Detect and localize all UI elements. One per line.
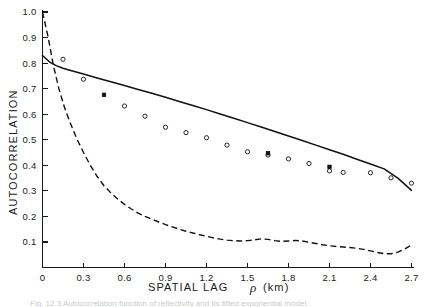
data-point-marker: [122, 104, 126, 108]
fitted-point-marker: [328, 165, 331, 168]
observed-data-points: [61, 57, 414, 185]
axes-group: [43, 10, 415, 268]
data-point-marker: [286, 157, 290, 161]
y-tick-label: 0.9: [22, 32, 36, 43]
x-axis-title-units: (km): [263, 281, 289, 293]
y-axis-title: AUTOCORRELATION: [7, 90, 19, 216]
x-tick-label: 2.7: [404, 272, 418, 283]
x-axis-tick-labels: 00.30.60.91.21.51.82.12.42.7: [40, 272, 419, 283]
empirical-autocorrelation-dashed-curve: [43, 12, 412, 254]
data-point-marker: [204, 136, 208, 140]
y-tick-label: 0.7: [22, 83, 36, 94]
fitted-model-solid-curve: [43, 55, 412, 190]
data-point-marker: [341, 170, 345, 174]
x-tick-label: 0.3: [76, 272, 90, 283]
x-axis-title-main: SPATIAL LAG: [148, 281, 228, 293]
y-axis-ticks: [43, 12, 48, 242]
figure-caption: Fig. 12.3 Autocorrelation function of re…: [30, 299, 426, 307]
data-point-marker: [143, 114, 147, 118]
y-tick-label: 0.2: [22, 211, 36, 222]
autocorrelation-chart: 0.10.20.30.40.50.60.70.80.91.0 00.30.60.…: [0, 0, 426, 307]
x-axis-ticks: [43, 263, 412, 268]
y-axis-tick-labels: 0.10.20.30.40.50.60.70.80.91.0: [22, 6, 36, 247]
y-tick-label: 0.1: [22, 236, 36, 247]
data-point-marker: [61, 57, 65, 61]
data-point-marker: [327, 169, 331, 173]
y-tick-label: 1.0: [22, 6, 36, 17]
data-point-marker: [81, 77, 85, 81]
y-tick-label: 0.4: [22, 160, 36, 171]
x-tick-label: 2.1: [322, 272, 336, 283]
fitted-point-marker: [266, 152, 269, 155]
data-point-marker: [307, 161, 311, 165]
data-point-marker: [184, 131, 188, 135]
data-point-marker: [163, 125, 167, 129]
y-tick-label: 0.6: [22, 109, 36, 120]
data-point-marker: [245, 150, 249, 154]
x-tick-label: 0: [40, 272, 46, 283]
data-point-marker: [389, 176, 393, 180]
figure-container: 0.10.20.30.40.50.60.70.80.91.0 00.30.60.…: [0, 0, 426, 307]
y-tick-label: 0.3: [22, 185, 36, 196]
data-point-marker: [225, 143, 229, 147]
x-axis-title-rho-symbol: ρ: [249, 280, 256, 295]
fitted-point-marker: [102, 93, 105, 96]
data-point-marker: [409, 181, 413, 185]
x-tick-label: 2.4: [363, 272, 377, 283]
x-axis-title-group: SPATIAL LAG ρ (km): [148, 280, 289, 295]
fitted-sample-points: [102, 93, 331, 168]
y-tick-label: 0.8: [22, 58, 36, 69]
y-tick-label: 0.5: [22, 134, 36, 145]
x-tick-label: 0.6: [117, 272, 131, 283]
data-point-marker: [368, 171, 372, 175]
